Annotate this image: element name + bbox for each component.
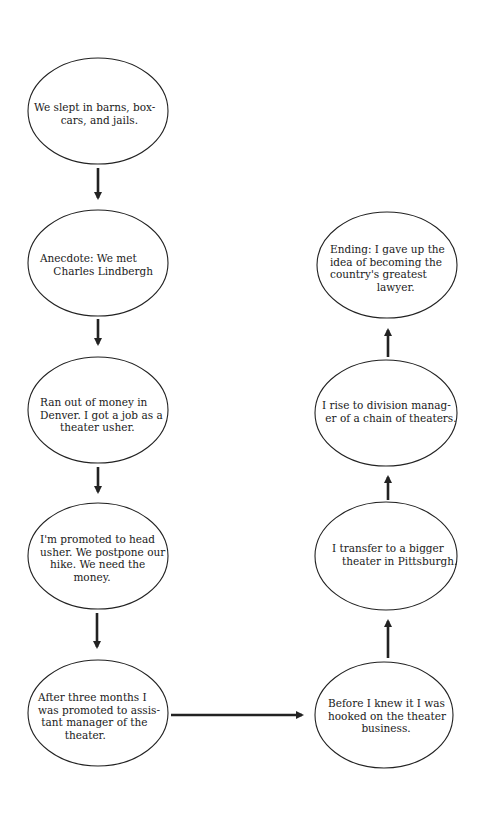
node-n1-text: We slept in barns, box- cars, and jails. (34, 101, 155, 126)
node-n4-text: I'm promoted to head usher. We postpone … (40, 533, 165, 583)
node-n6-text: Before I knew it I was hooked on the the… (328, 697, 446, 735)
node-n5-text: After three months I was promoted to ass… (38, 691, 160, 741)
node-n2-text: Anecdote: We met Charles Lindbergh (40, 252, 153, 277)
node-n9-text: Ending: I gave up the idea of becoming t… (330, 243, 445, 293)
node-n7-text: I transfer to a bigger theater in Pittsb… (332, 542, 457, 567)
node-n3-text: Ran out of money in Denver. I got a job … (40, 396, 163, 434)
node-n8-text: I rise to division manag- er of a chain … (322, 399, 457, 424)
